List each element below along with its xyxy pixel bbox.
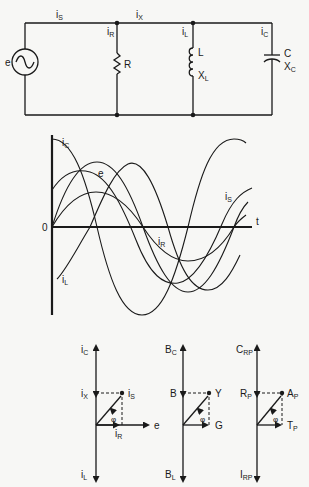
phasor-current: φ iC iX iL iS iR e — [81, 344, 160, 481]
current-label-ix: iX — [136, 9, 143, 21]
phasor-admittance: φ BC B BL Y G — [165, 344, 223, 481]
phasor-label-tp: TP — [287, 420, 298, 432]
phasor-label-ix: iX — [81, 388, 88, 400]
current-label-il: iL — [182, 26, 188, 38]
phasor-label-bl: BL — [165, 469, 176, 481]
source-label: e — [5, 57, 11, 68]
phasor-label-y: Y — [215, 388, 222, 399]
inductor-icon — [189, 48, 193, 76]
current-label-ic: iC — [261, 26, 268, 38]
phasor-label-is: iS — [128, 388, 135, 400]
current-label-is: iS — [56, 9, 63, 21]
angle-phi-label: φ — [273, 415, 278, 424]
phasor-label-rp: RP — [240, 388, 252, 400]
phasor-label-g: G — [215, 420, 223, 431]
curve-label-is: iS — [225, 191, 232, 203]
circuit-schematic: e R L XL C XC iS iX iR iL iC — [5, 9, 296, 117]
phasor-label-bc: BC — [165, 344, 177, 356]
angle-phi-label: φ — [200, 415, 205, 424]
phasor-label-il: iL — [81, 469, 87, 481]
curve-label-ic: iC — [62, 137, 69, 149]
phasor-label-ir: iR — [115, 428, 122, 440]
current-label-ir: iR — [107, 26, 114, 38]
phasor-label-crp: CRP — [236, 344, 253, 356]
angle-phi-label: φ — [111, 415, 116, 424]
phasor-label-ic: iC — [81, 344, 88, 356]
phasor-label-irp: IRP — [240, 469, 253, 481]
curve-label-ir: iR — [158, 236, 165, 248]
capacitor-label: C — [284, 48, 291, 59]
origin-label: 0 — [42, 222, 48, 233]
waveform-plot: 0 t iC e iS iR iL — [42, 135, 259, 315]
inductor-label: L — [198, 47, 204, 58]
ac-source-icon — [12, 49, 38, 75]
phasor-label-e: e — [154, 420, 160, 431]
phasor-power: φ CRP RP IRP AP TP — [236, 344, 299, 481]
phasor-label-ap: AP — [287, 388, 299, 400]
curve-label-e: e — [98, 168, 104, 179]
time-axis-label: t — [256, 216, 259, 227]
parallel-rlc-diagram: e R L XL C XC iS iX iR iL iC — [0, 0, 309, 487]
inductor-reactance-label: XL — [198, 70, 209, 82]
phasor-label-b: B — [170, 388, 177, 399]
curve-label-il: iL — [62, 274, 68, 286]
resistor-icon — [114, 53, 120, 74]
capacitor-reactance-label: XC — [284, 61, 296, 73]
resistor-label: R — [124, 59, 131, 70]
